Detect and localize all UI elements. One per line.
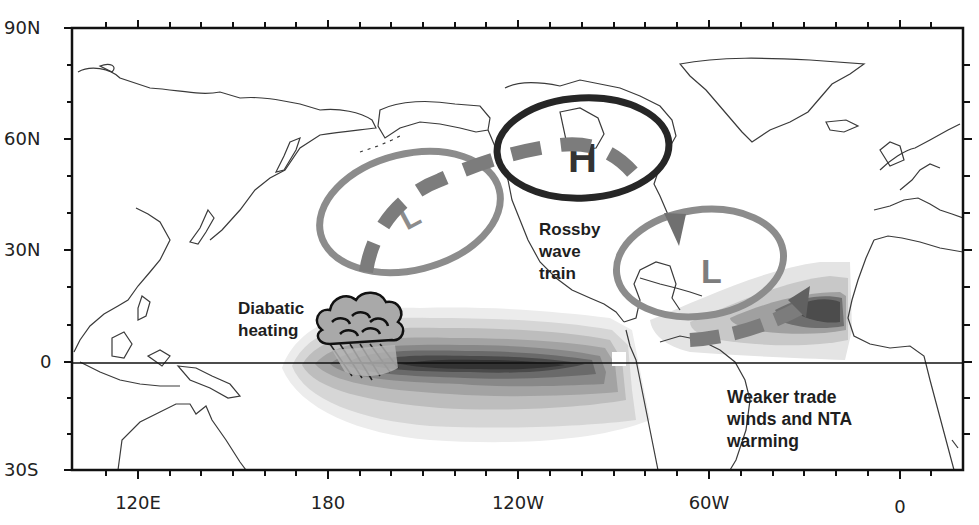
annotation-line: Diabatic	[238, 298, 304, 320]
x-tick-label-180: 180	[311, 492, 345, 513]
annotation-line: warming	[727, 430, 852, 452]
y-tick-label-30n: 30N	[4, 239, 40, 260]
annotation-line: Rossby	[539, 219, 600, 241]
annotation-line: Weaker trade	[727, 386, 852, 408]
y-tick-label-60n: 60N	[4, 128, 40, 149]
y-tick-label-90n: 90N	[4, 17, 40, 38]
y-tick-label-30s: 30S	[4, 459, 38, 480]
annotation-line: winds and NTA	[727, 408, 852, 430]
annotation-weaker-trade-winds: Weaker trade winds and NTA warming	[727, 386, 852, 452]
annotation-line: heating	[238, 320, 304, 342]
low-label-atlantic: L	[701, 252, 722, 290]
annotation-rossby-wave-train: Rossby wave train	[539, 219, 600, 285]
x-tick-label-60w: 60W	[689, 492, 730, 513]
x-tick-label-0: 0	[894, 496, 905, 517]
annotation-line: train	[539, 263, 600, 285]
x-tick-label-120e: 120E	[115, 492, 161, 513]
x-tick-label-120w: 120W	[492, 492, 544, 513]
annotation-line: wave	[539, 241, 600, 263]
annotation-diabatic-heating: Diabatic heating	[238, 298, 304, 342]
y-tick-label-0: 0	[40, 351, 51, 372]
